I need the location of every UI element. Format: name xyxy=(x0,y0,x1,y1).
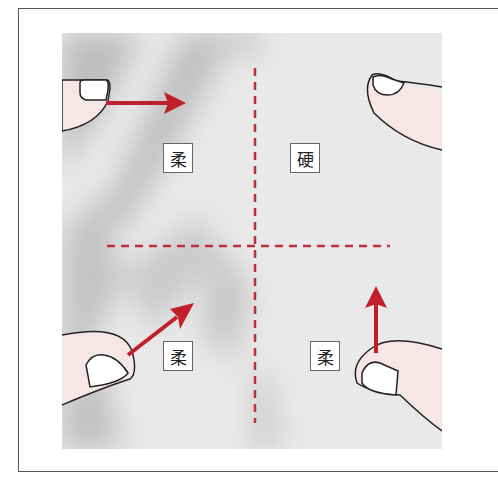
thumb-bottom-right xyxy=(355,341,442,431)
label-top-left: 柔 xyxy=(163,143,193,173)
diagram-graphics xyxy=(62,33,442,449)
label-bottom-left: 柔 xyxy=(163,341,193,371)
label-bottom-right: 柔 xyxy=(310,341,340,371)
thumb-top-left xyxy=(62,80,110,131)
thumb-top-right xyxy=(367,74,442,151)
label-top-right: 硬 xyxy=(290,143,320,173)
diagram-panel: 柔 硬 柔 柔 xyxy=(62,33,442,449)
